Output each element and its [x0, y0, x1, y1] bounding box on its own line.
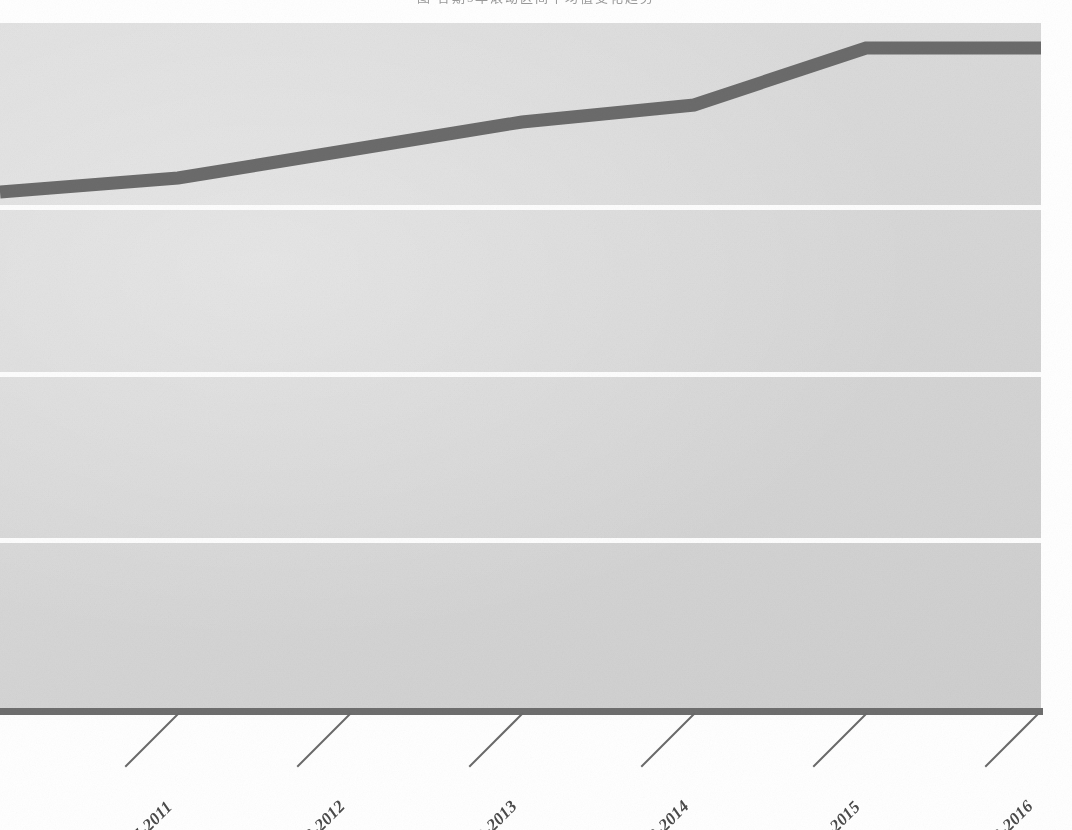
x-tick-mark	[297, 712, 352, 767]
chart-title: 图 各期5年滚动区间平均值变化趋势	[0, 0, 1072, 7]
plot-area	[0, 23, 1041, 713]
x-tick-mark	[469, 712, 524, 767]
x-tick-mark	[641, 712, 696, 767]
x-tick-label: 2008-2012	[282, 797, 350, 830]
series-line-path	[0, 48, 1041, 192]
scanned-chart-page: 图 各期5年滚动区间平均值变化趋势 2007-2011 2008-2012 20…	[0, 0, 1072, 830]
x-axis-tick-layer: 2007-2011 2008-2012 2009-2013 2010-2014 …	[0, 713, 1072, 830]
series-line-chart	[0, 23, 1041, 713]
x-tick-label: 2009-2013	[454, 797, 522, 830]
x-tick-mark	[125, 712, 180, 767]
x-tick-label: 2011-2015	[798, 797, 865, 830]
x-tick-label: 2012-2016	[970, 797, 1038, 830]
x-tick-label: 2010-2014	[626, 797, 694, 830]
x-tick-label: 2007-2011	[110, 797, 177, 830]
x-tick-mark	[813, 712, 868, 767]
x-tick-mark	[985, 712, 1040, 767]
